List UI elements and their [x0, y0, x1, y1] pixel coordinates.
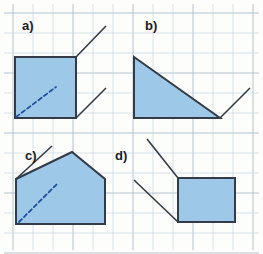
panel-label-d: d) [115, 148, 127, 163]
panel-label-b: b) [145, 18, 157, 33]
panel-label-a: a) [22, 18, 34, 33]
panel-label-c: c) [25, 148, 37, 163]
shape-square-a [15, 57, 76, 118]
figure-container: a)b)c)d) [0, 0, 263, 254]
figure-canvas: a)b)c)d) [0, 0, 263, 254]
shape-rectangle-d [178, 178, 235, 222]
